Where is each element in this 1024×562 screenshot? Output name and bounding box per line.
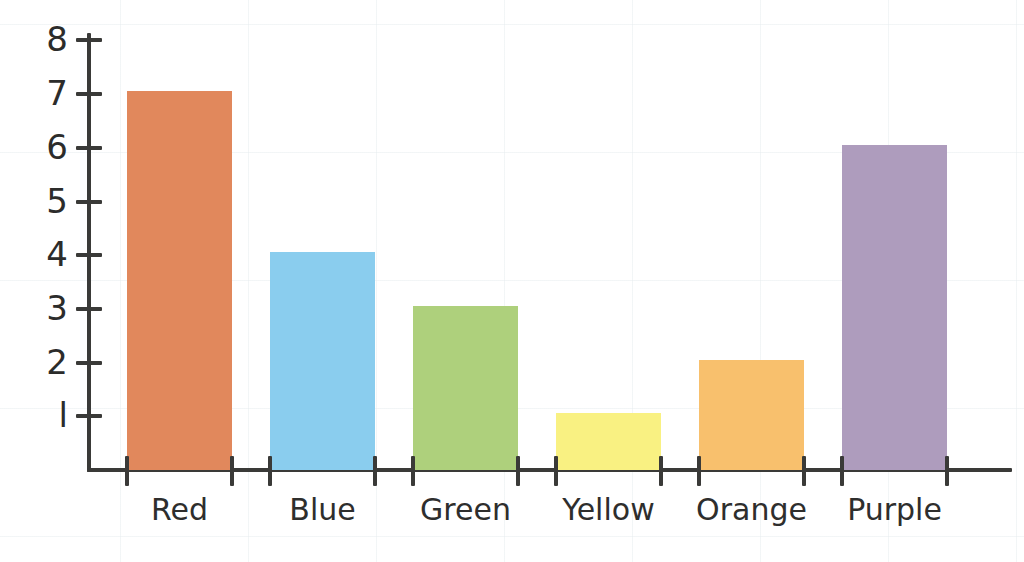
- bar-purple: [842, 145, 947, 470]
- bar-chart: l2345678 RedBlueGreenYellowOrangePurple: [0, 0, 1024, 562]
- x-axis-tick: [230, 456, 234, 486]
- x-axis-label-blue: Blue: [250, 495, 395, 525]
- bar-yellow: [556, 413, 661, 470]
- y-axis-tick-label: 3: [24, 291, 68, 325]
- y-axis-tick-label: 7: [24, 76, 68, 110]
- y-axis-tick: [76, 253, 102, 257]
- y-axis-tick-label: 2: [24, 345, 68, 379]
- y-axis-tick-label: 5: [24, 184, 68, 218]
- x-axis-tick: [125, 456, 129, 486]
- y-axis-tick-label: l: [24, 398, 68, 432]
- bar-red: [127, 91, 232, 470]
- x-axis-tick: [411, 456, 415, 486]
- y-axis-tick: [76, 146, 102, 150]
- x-axis-label-green: Green: [393, 495, 538, 525]
- y-axis-tick: [76, 200, 102, 204]
- x-axis-tick: [945, 456, 949, 486]
- y-axis-tick: [76, 414, 102, 418]
- y-axis-tick-label: 6: [24, 130, 68, 164]
- bar-orange: [699, 360, 804, 470]
- plot-area: l2345678 RedBlueGreenYellowOrangePurple: [0, 0, 1024, 562]
- x-axis-tick: [802, 456, 806, 486]
- bar-green: [413, 306, 518, 470]
- x-axis-tick: [268, 456, 272, 486]
- y-axis-tick: [76, 92, 102, 96]
- x-axis-tick: [516, 456, 520, 486]
- y-axis-tick-label: 8: [24, 22, 68, 56]
- y-axis-tick-label: 4: [24, 237, 68, 271]
- x-axis-label-orange: Orange: [679, 495, 824, 525]
- x-axis-label-red: Red: [107, 495, 252, 525]
- x-axis-tick: [659, 456, 663, 486]
- x-axis-tick: [373, 456, 377, 486]
- x-axis-label-purple: Purple: [822, 495, 967, 525]
- x-axis-tick: [697, 456, 701, 486]
- y-axis-tick: [76, 361, 102, 365]
- x-axis-tick: [554, 456, 558, 486]
- x-axis-label-yellow: Yellow: [536, 495, 681, 525]
- y-axis-tick: [76, 38, 102, 42]
- bar-blue: [270, 252, 375, 470]
- x-axis-tick: [840, 456, 844, 486]
- y-axis-tick: [76, 307, 102, 311]
